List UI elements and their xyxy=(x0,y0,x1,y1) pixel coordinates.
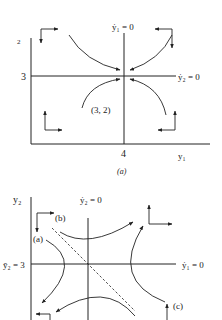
path-label-c: (c) xyxy=(173,301,183,311)
direction-arrows-bottom-left xyxy=(45,111,62,130)
path-label-a: (a) xyxy=(33,234,43,244)
trajectory-top-right xyxy=(130,35,172,70)
direction-arrows-top-right xyxy=(155,29,172,48)
direction-arrows-top-left xyxy=(41,29,58,43)
x-tick-label: 4 xyxy=(121,148,126,159)
y-tick-label: 3 xyxy=(21,71,26,82)
direction-arrows-top-right xyxy=(149,205,172,224)
nullcline-horizontal-label: ẏ₁ = 0 xyxy=(182,260,204,270)
phase-diagrams: 2 3 4 y₁ ẏ₁ = 0 ẏ₂ = 0 (3, 2) (a) xyxy=(0,0,222,320)
trajectory-left xyxy=(42,240,65,303)
nullcline-vertical-label: ẏ₁ = 0 xyxy=(112,22,134,32)
y-tick-label: ȳ₂ = 3 xyxy=(3,260,25,270)
nullcline-vertical-label: ẏ₂ = 0 xyxy=(80,195,102,205)
y-axis-label: y₂ xyxy=(13,194,22,205)
trajectory-top-left xyxy=(69,35,120,70)
trajectory-bottom xyxy=(56,297,135,316)
direction-arrows-bottom-left xyxy=(36,314,50,320)
path-label-b: (b) xyxy=(55,213,66,223)
point-label: (3, 2) xyxy=(91,105,111,115)
caption: (a) xyxy=(117,167,127,176)
trajectory-bottom-left xyxy=(82,79,120,108)
panel-b: y₂ ȳ₂ = 3 ẏ₂ = 0 ẏ₁ = 0 (a) (b) (c) xyxy=(3,194,204,320)
direction-arrows-top-left xyxy=(37,213,54,232)
nullcline-horizontal-label: ẏ₂ = 0 xyxy=(178,72,200,82)
panel-a: 2 3 4 y₁ ẏ₁ = 0 ẏ₂ = 0 (3, 2) (a) xyxy=(17,22,210,176)
trajectory-top xyxy=(60,222,133,239)
x-axis-label: y₁ xyxy=(178,151,186,161)
direction-arrows-bottom-right xyxy=(158,111,175,130)
y-axis-label: 2 xyxy=(17,38,21,46)
trajectory-bottom-right xyxy=(130,79,166,115)
